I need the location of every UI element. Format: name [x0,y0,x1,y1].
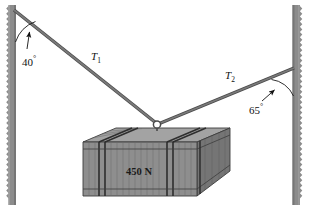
tension-label-t2: T2 [225,70,235,84]
mechanics-figure: 40° 65° T1 T2 450 N [0,0,311,212]
angle-leader-right [262,90,275,101]
angle-left-value: 40 [22,56,33,68]
tension-t2-subscript: 2 [231,75,235,84]
left-wall [6,5,16,205]
crate-weight-label: 450 N [126,167,152,178]
tension-t1-subscript: 1 [97,56,101,65]
angle-arc-right [272,80,294,97]
angle-right-degree: ° [260,102,263,111]
right-wall-serration [300,6,302,198]
angle-label-right: 65° [249,103,263,116]
tension-label-t1: T1 [91,51,101,65]
right-wall [293,5,303,205]
angle-right-value: 65 [249,104,260,116]
left-wall-serration [6,6,8,198]
figure-canvas [0,0,311,212]
crate [83,128,230,196]
angle-label-left: 40° [22,55,36,68]
angle-leader-left [27,32,30,49]
angle-left-degree: ° [33,54,36,63]
